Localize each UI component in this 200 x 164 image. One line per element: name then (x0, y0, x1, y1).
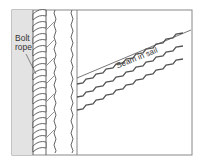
sail-edge (12, 10, 33, 155)
bolt-rope-label-line2: rope (15, 43, 32, 52)
bolt-rope-diagram (0, 0, 200, 164)
bolt-rope-label: Bolt rope (15, 34, 32, 52)
